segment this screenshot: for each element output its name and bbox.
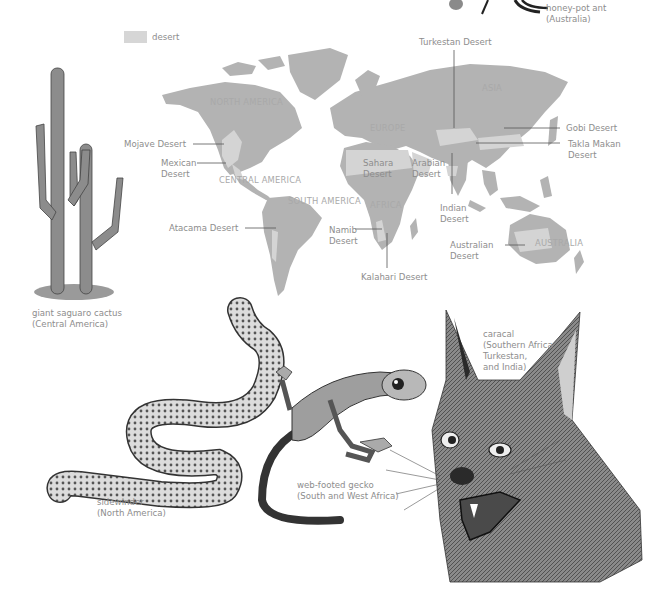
sidewinder-illustration [59,310,271,495]
continent-label-south-america: SOUTH AMERICA [288,196,361,206]
caption-caracal: caracal (Southern Africa, Turkestan, and… [483,329,555,373]
desert-label-mojave: Mojave Desert [124,139,186,150]
desert-label-sahara: Sahara Desert [363,158,393,180]
desert-label-kalahari: Kalahari Desert [361,272,427,283]
legend-desert-label: desert [152,32,179,43]
desert-label-gobi: Gobi Desert [566,123,617,134]
continent-label-north-america: NORTH AMERICA [210,97,283,107]
caption-honey-pot-ant: honey-pot ant (Australia) [546,3,606,25]
continent-label-central-america: CENTRAL AMERICA [219,175,301,185]
desert-label-australian: Australian Desert [450,240,493,262]
desert-label-arabian: Arabian Desert [412,158,445,180]
desert-label-namib: Namib Desert [329,225,358,247]
caption-saguaro-cactus: giant saguaro cactus (Central America) [32,308,122,330]
continent-label-europe: EUROPE [370,123,405,133]
desert-label-takla-makan: Takla Makan Desert [568,139,621,161]
caption-sidewinder: sidewinder (North America) [97,497,166,519]
continent-label-asia: ASIA [482,83,502,93]
saguaro-cactus-illustration [34,68,123,300]
desert-label-atacama: Atacama Desert [169,223,238,234]
honey-pot-ant-illustration [449,0,548,14]
desert-label-mexican: Mexican Desert [161,158,196,180]
desert-label-turkestan: Turkestan Desert [419,37,492,48]
legend-desert-swatch [124,31,147,43]
continent-label-africa: AFRICA [370,200,402,210]
continent-label-australia: AUSTRALIA [535,238,583,248]
desert-label-indian: Indian Desert [440,203,469,225]
caption-gecko: web-footed gecko (South and West Africa) [297,480,399,502]
